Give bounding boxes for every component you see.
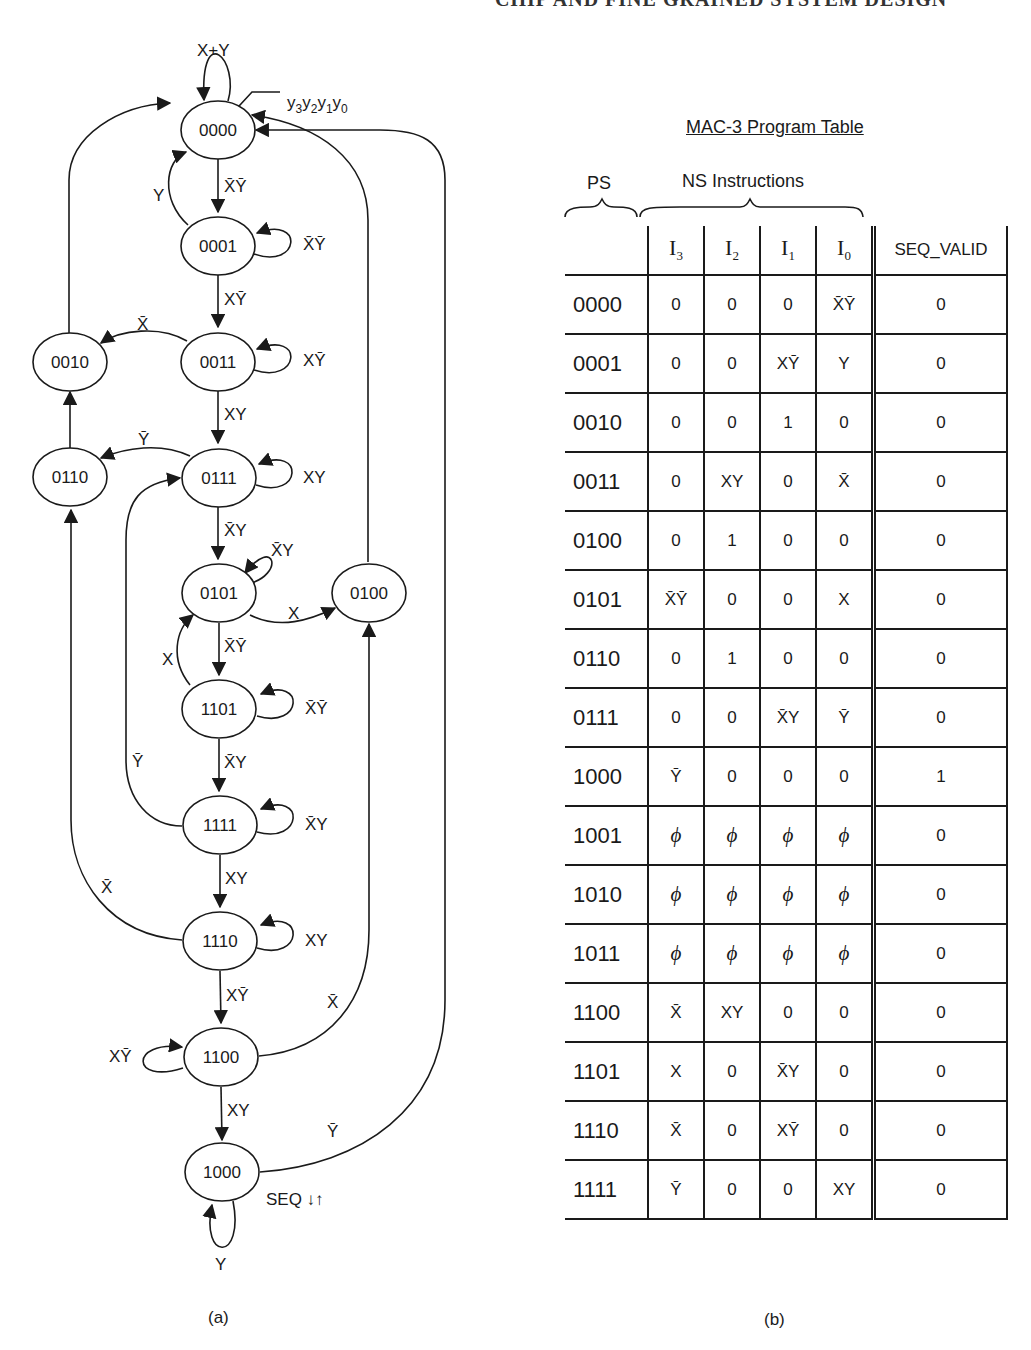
edge-label: X̄ — [137, 315, 148, 334]
table-row: 0101X̄Ȳ00X0 — [565, 570, 1007, 629]
table-row: 0000000X̄Ȳ0 — [565, 275, 1007, 334]
svg-text:1101: 1101 — [201, 700, 238, 719]
cell-seq-valid: 0 — [874, 570, 1008, 629]
edge-label: X — [162, 650, 173, 669]
edge-label: X̄Y — [224, 521, 247, 540]
svg-text:0110: 0110 — [52, 468, 89, 487]
cell-i3: 0 — [648, 393, 704, 452]
svg-text:1110: 1110 — [202, 932, 237, 951]
edge-label: X̄Y — [305, 815, 328, 834]
edge-label: XȲ — [303, 351, 326, 370]
col-header-i2: I2 — [704, 226, 760, 275]
cell-i1: 0 — [760, 747, 816, 806]
table-row: 000100XȲY0 — [565, 334, 1007, 393]
col-header-i0: I0 — [816, 226, 874, 275]
cell-i2: 0 — [704, 275, 760, 334]
cell-i3: 0 — [648, 275, 704, 334]
running-head: CHIP AND FINE GRAINED SYSTEM DESIGN — [495, 0, 1031, 11]
table-row: 011100X̄YȲ0 — [565, 688, 1007, 747]
edge-label: X̄ — [327, 993, 338, 1012]
cell-i2: ϕ — [704, 924, 760, 983]
cell-i2: 1 — [704, 629, 760, 688]
state-node: 0010 — [33, 333, 107, 391]
cell-i0: 0 — [816, 393, 874, 452]
cell-seq-valid: 0 — [874, 806, 1008, 865]
cell-ps: 1010 — [565, 865, 648, 924]
state-node: 0011 — [181, 333, 255, 391]
cell-i1: 0 — [760, 1160, 816, 1219]
cell-i1: 0 — [760, 511, 816, 570]
edge-label: X+Y — [197, 41, 230, 60]
cell-i2: 0 — [704, 747, 760, 806]
cell-seq-valid: 0 — [874, 924, 1008, 983]
cell-seq-valid: 0 — [874, 1101, 1008, 1160]
state-node: 1000 — [185, 1143, 259, 1201]
cell-seq-valid: 0 — [874, 688, 1008, 747]
svg-text:0100: 0100 — [350, 584, 388, 603]
cell-ps: 1110 — [565, 1101, 648, 1160]
cell-seq-valid: 0 — [874, 452, 1008, 511]
cell-seq-valid: 0 — [874, 511, 1008, 570]
cell-i3: 0 — [648, 629, 704, 688]
cell-ps: 1101 — [565, 1042, 648, 1101]
cell-i3: 0 — [648, 688, 704, 747]
cell-i1: ϕ — [760, 924, 816, 983]
edge-label: X̄Ȳ — [224, 177, 247, 196]
state-node: 0000 — [181, 101, 255, 159]
col-header-i3: I3 — [648, 226, 704, 275]
table-row: 1000Ȳ0001 — [565, 747, 1007, 806]
ps-group-label: PS — [587, 173, 611, 194]
edge-label: XȲ — [109, 1047, 132, 1066]
cell-i3: X̄ — [648, 1101, 704, 1160]
cell-ps: 0001 — [565, 334, 648, 393]
cell-i3: Ȳ — [648, 747, 704, 806]
cell-ps: 1001 — [565, 806, 648, 865]
cell-ps: 1000 — [565, 747, 648, 806]
state-code-label: y3y2y1y0 — [287, 93, 348, 116]
svg-text:1111: 1111 — [203, 816, 237, 835]
svg-text:0011: 0011 — [200, 353, 237, 372]
edge-label: XY — [227, 1101, 250, 1120]
cell-i1: 0 — [760, 983, 816, 1042]
cell-i1: X̄Y — [760, 688, 816, 747]
cell-i3: 0 — [648, 511, 704, 570]
cell-i3: X̄Ȳ — [648, 570, 704, 629]
cell-i1: 0 — [760, 570, 816, 629]
cell-i1: 0 — [760, 275, 816, 334]
table-row: 001000100 — [565, 393, 1007, 452]
cell-i2: 0 — [704, 570, 760, 629]
cell-i0: X̄ — [816, 452, 874, 511]
edge-label: X̄Y — [224, 753, 247, 772]
table-row: 1011ϕϕϕϕ0 — [565, 924, 1007, 983]
col-header-ps — [565, 226, 648, 275]
cell-i0: X̄Ȳ — [816, 275, 874, 334]
cell-seq-valid: 0 — [874, 393, 1008, 452]
svg-text:1100: 1100 — [203, 1048, 240, 1067]
edge-label: Ȳ — [132, 752, 143, 771]
cell-ps: 0110 — [565, 629, 648, 688]
edge-label: XȲ — [224, 290, 247, 309]
cell-i0: 0 — [816, 629, 874, 688]
edge-label: X̄Ȳ — [303, 235, 326, 254]
svg-text:0010: 0010 — [51, 353, 89, 372]
edge-label: Y — [153, 186, 164, 205]
svg-text:0101: 0101 — [200, 584, 238, 603]
state-node: 1110 — [183, 912, 257, 970]
cell-i0: ϕ — [816, 865, 874, 924]
cell-i1: 0 — [760, 452, 816, 511]
cell-i3: 0 — [648, 452, 704, 511]
cell-i2: 0 — [704, 1042, 760, 1101]
cell-seq-valid: 0 — [874, 983, 1008, 1042]
table-row: 1111Ȳ00XY0 — [565, 1160, 1007, 1219]
svg-text:0001: 0001 — [199, 237, 237, 256]
edge-label: Y — [215, 1255, 226, 1274]
cell-i2: 0 — [704, 1160, 760, 1219]
cell-i1: XȲ — [760, 334, 816, 393]
cell-i2: 0 — [704, 393, 760, 452]
cell-i1: ϕ — [760, 865, 816, 924]
edge-label: XY — [305, 931, 328, 950]
table-row: 1110X̄0XȲ00 — [565, 1101, 1007, 1160]
cell-i1: X̄Y — [760, 1042, 816, 1101]
state-diagram: 0000 0001 0011 0010 0111 0110 0101 0100 … — [0, 0, 480, 1350]
cell-ps: 0000 — [565, 275, 648, 334]
